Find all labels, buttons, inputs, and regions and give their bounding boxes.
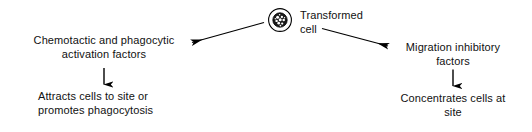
arrow-left-branch (192, 23, 264, 43)
right-outcome-label: Concentrates cells at site (389, 92, 517, 119)
transformed-cell-label: Transformed cell (300, 9, 410, 36)
left-factor-label: Chemotactic and phagocytic activation fa… (22, 34, 186, 61)
right-factor-label: Migration inhibitory factors (393, 41, 513, 68)
transformed-cell-flow-diagram: Transformed cell Chemotactic and phagocy… (0, 0, 532, 132)
left-outcome-label: Attracts cells to site or promotes phago… (38, 90, 218, 117)
transformed-cell-icon (267, 7, 293, 33)
